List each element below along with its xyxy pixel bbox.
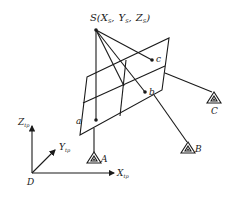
- control-point-A-label: A: [100, 154, 108, 164]
- ray-s-to-b: [96, 30, 145, 92]
- image-point-b: [143, 90, 147, 94]
- ray-s-to-c: [96, 30, 152, 60]
- control-point-A-icon: [87, 152, 101, 163]
- z-axis-label: Ztp: [17, 117, 30, 129]
- ray-s-to-plane: [96, 30, 124, 86]
- image-point-a-label: a: [76, 116, 81, 126]
- ray-c-to-C: [165, 73, 212, 92]
- image-point-b-label: b: [149, 87, 155, 97]
- image-point-c: [150, 58, 154, 62]
- y-axis-label: Ytp: [59, 142, 71, 154]
- origin-label: D: [26, 177, 34, 187]
- ray-b-to-B: [154, 95, 187, 142]
- y-axis: [32, 150, 55, 173]
- image-point-a: [94, 118, 98, 122]
- resection-diagram: S(XS,YS,ZS) c b a A B C Xtp Ztp Ytp D: [0, 0, 236, 197]
- x-axis-label: Xtp: [116, 168, 129, 180]
- control-point-C-label: C: [211, 106, 218, 116]
- image-plane-grid-line-vertical: [120, 60, 126, 116]
- projection-center-point: [94, 28, 98, 32]
- control-point-B-icon: [181, 142, 195, 153]
- control-point-B-label: B: [194, 144, 202, 154]
- image-plane: [80, 38, 169, 135]
- control-point-C-icon: [207, 92, 221, 103]
- image-plane-grid-line-horizontal: [83, 66, 165, 103]
- image-point-c-label: c: [156, 54, 161, 64]
- projection-center-label: S(XS,YS,ZS): [90, 12, 150, 24]
